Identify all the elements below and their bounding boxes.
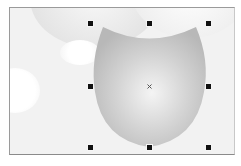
resize-handle-top-right[interactable] <box>206 21 211 26</box>
resize-handle-bottom-center[interactable] <box>147 145 152 150</box>
resize-handle-bottom-left[interactable] <box>88 145 93 150</box>
selection-layer <box>0 0 241 166</box>
resize-handle-bottom-right[interactable] <box>206 145 211 150</box>
center-x-icon[interactable] <box>147 84 152 89</box>
resize-handle-middle-left[interactable] <box>88 84 93 89</box>
resize-handle-middle-right[interactable] <box>206 84 211 89</box>
resize-handle-top-left[interactable] <box>88 21 93 26</box>
resize-handle-top-center[interactable] <box>147 21 152 26</box>
